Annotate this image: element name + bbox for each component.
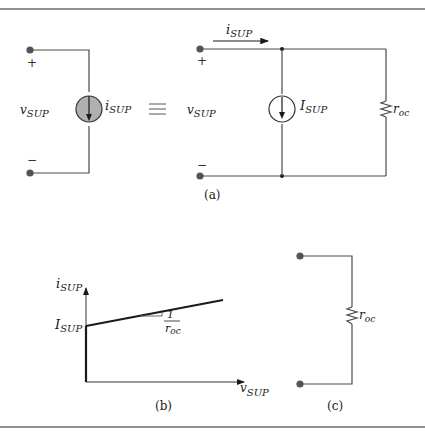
plus-sign: + [27, 56, 37, 70]
circuit-figure: + − vSUP iSUP iSUP + − vSUP ISUP roc [0, 0, 425, 436]
wire-bottom [300, 324, 352, 384]
characteristic-line [86, 300, 223, 326]
dependent-current-source-icon [76, 96, 102, 122]
source-label: ISUP [299, 98, 327, 115]
current-arrow-label: iSUP [226, 22, 252, 39]
wire-top [300, 256, 352, 307]
minus-sign: − [197, 158, 207, 172]
minus-sign: − [27, 153, 37, 167]
x-axis-label: vSUP [240, 381, 269, 398]
voltage-label: vSUP [187, 103, 216, 119]
panel-b-iv-graph: 1 roc iSUP vSUP ISUP [54, 276, 269, 398]
resistor-label: roc [393, 102, 409, 118]
figure-canvas: + − vSUP iSUP iSUP + − vSUP ISUP roc [0, 0, 425, 436]
slope-numerator: 1 [167, 308, 174, 321]
plus-sign: + [197, 54, 207, 68]
slope-denominator: roc [165, 322, 181, 336]
wire-top [30, 50, 89, 92]
resistor-icon [347, 307, 357, 324]
intercept-label: ISUP [54, 317, 82, 334]
resistor-icon [381, 101, 391, 117]
panel-a-right-circuit: iSUP + − vSUP ISUP roc [187, 22, 409, 180]
caption-a: (a) [204, 188, 221, 202]
y-axis-label: iSUP [56, 276, 82, 293]
equivalence-icon [149, 104, 166, 114]
voltage-label: vSUP [20, 103, 49, 119]
panel-c-circuit: roc [296, 252, 375, 387]
caption-b: (b) [155, 399, 172, 413]
wire-bottom [30, 126, 89, 173]
resistor-label: roc [359, 308, 375, 324]
independent-current-source-icon [269, 96, 295, 122]
source-label: iSUP [105, 98, 131, 115]
caption-c: (c) [327, 399, 343, 413]
panel-a-left-circuit: + − vSUP iSUP [20, 46, 131, 176]
